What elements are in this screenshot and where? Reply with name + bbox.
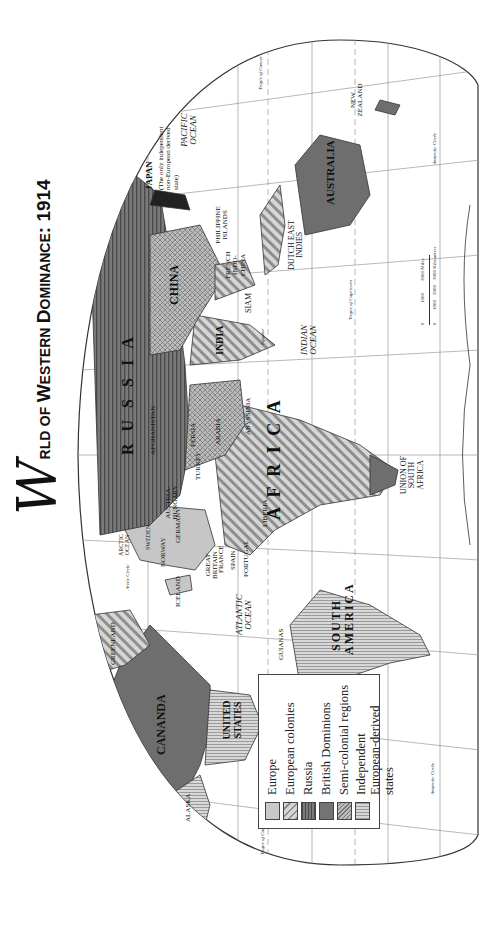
label-india: INDIA xyxy=(215,326,226,355)
label-dutch-east-indies: DUTCH EAST INDIES xyxy=(288,215,305,275)
label-portugal: PORTUGAL xyxy=(243,540,250,577)
label-tropic-cancer-east: Tropic of Cancer xyxy=(258,56,263,90)
colonies-swatch xyxy=(283,802,298,820)
label-philippines: PHILIPPINE ISLANDS xyxy=(215,200,230,250)
label-atlantic-ocean: ATLANTIC OCEAN xyxy=(235,595,254,635)
label-canada: CANANDA xyxy=(155,694,168,755)
label-arctic-circle: Arctic Circle xyxy=(125,564,130,590)
label-austria-hungary: AUSTRIA-HUNGARY xyxy=(165,480,180,525)
label-arabia: ARABIA xyxy=(215,418,222,445)
label-new-zealand: NEW ZEALAND xyxy=(350,80,365,120)
label-australia: AUSTRALIA xyxy=(325,140,337,205)
label-tropic-capricorn: Tropic of Capricorn xyxy=(348,280,353,320)
map-stage: WRLD OF WESTERN DOMINANCE: 1914 xyxy=(0,0,491,925)
label-spain: SPAIN xyxy=(230,550,237,570)
label-siam: SIAM xyxy=(245,293,253,313)
label-persia: PERSIA xyxy=(190,423,197,447)
label-indian-ocean: INDIAN OCEAN xyxy=(300,320,319,360)
label-liberia: LIBERIA xyxy=(262,499,269,527)
label-china: CHINA xyxy=(168,265,181,305)
semicolonial-swatch xyxy=(337,802,352,820)
label-south-america: SOUTH AMERICA xyxy=(330,595,355,655)
label-greenland: GREENLAND xyxy=(110,622,117,665)
label-union-south-africa: UNION OF SOUTH AFRICA xyxy=(400,450,425,500)
label-french-indochina: FRENCH INDO-CHINA xyxy=(225,245,247,285)
label-iceland: ICELAND xyxy=(175,576,182,607)
label-antarctic-circle-west: Antarctic Circle xyxy=(430,763,435,795)
legend-item-semi-colonial: Semi-colonial regions xyxy=(337,683,355,820)
europe-swatch xyxy=(265,802,280,820)
dominions-swatch xyxy=(319,802,334,820)
label-japan-note: (The only independent non-European deriv… xyxy=(158,120,180,190)
legend-item-europe: Europe xyxy=(265,683,283,820)
label-russia: R U S S I A xyxy=(120,333,137,455)
legend-item-russia: Russia xyxy=(301,683,319,820)
label-pacific-ocean-east: PACIFIC OCEAN xyxy=(180,110,199,150)
label-united-states: UNITED STATES xyxy=(222,695,243,745)
label-antarctic-circle-east: Antarctic Circle xyxy=(432,133,437,165)
label-afghanistan: AFGHANISTAN xyxy=(150,406,157,455)
label-japan: JAPAN xyxy=(145,161,154,190)
label-france: FRANCE xyxy=(218,545,225,573)
russia-swatch xyxy=(301,802,316,820)
map-legend: Europe European colonies Russia British … xyxy=(258,674,380,829)
label-abyssinia: ABYSSINIA xyxy=(245,398,252,435)
label-norway: NORWAY xyxy=(160,537,167,567)
legend-item-european-colonies: European colonies xyxy=(283,683,301,820)
label-equator-east: Equator xyxy=(260,329,265,345)
legend-item-british-dominions: British Dominions xyxy=(319,683,337,820)
legend-item-independent: Independent European-derived states xyxy=(355,683,385,820)
scale-bar: 0 1000 2000 Miles 0 1000 2000 3000 Kilom… xyxy=(420,235,442,325)
label-sweden: SWEDEN xyxy=(145,525,151,550)
label-arctic-ocean: ARCTIC OCEAN xyxy=(118,525,131,565)
label-guianas: GUIANAS xyxy=(278,629,285,661)
independent-swatch xyxy=(355,802,370,820)
label-turkey: TURKEY xyxy=(195,452,202,480)
label-alaska: ALASKA xyxy=(185,794,192,822)
